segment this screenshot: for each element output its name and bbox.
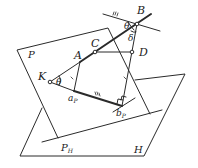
point-b xyxy=(135,22,139,26)
label-ap: aP xyxy=(68,93,78,104)
trace-line-ph xyxy=(42,110,162,142)
single-tick-b-bp xyxy=(124,77,126,79)
triple-tick-bottom xyxy=(95,92,100,96)
label-b: B xyxy=(136,4,145,17)
plane-p-outline xyxy=(17,28,150,138)
point-c xyxy=(93,50,97,54)
diagram-canvas: B C D A K P H θ θ δ aP bP PH xyxy=(0,0,198,168)
line-a-ap xyxy=(74,62,80,91)
plane-h-outline xyxy=(20,74,185,156)
projection-ap-bp xyxy=(74,91,122,106)
label-k: K xyxy=(37,70,47,83)
label-plane-p: P xyxy=(27,49,35,60)
helper-line-b xyxy=(103,14,160,31)
line-k-ap xyxy=(50,82,74,91)
label-bp: bP xyxy=(116,108,127,119)
label-d: D xyxy=(138,46,148,59)
point-d xyxy=(130,50,134,54)
label-c: C xyxy=(91,37,100,50)
label-plane-h: H xyxy=(133,144,143,155)
geometry-figure: B C D A K P H θ θ δ aP bP PH xyxy=(0,0,198,168)
label-delta: δ xyxy=(128,33,133,43)
triple-tick-top xyxy=(113,12,118,16)
label-theta-k: θ xyxy=(56,77,62,87)
single-tick-a-ap xyxy=(71,77,73,79)
label-trace-ph: PH xyxy=(60,142,74,154)
label-a: A xyxy=(73,49,82,62)
point-k xyxy=(48,80,52,84)
label-theta-b: θ xyxy=(124,21,130,31)
line-ka xyxy=(50,62,80,82)
